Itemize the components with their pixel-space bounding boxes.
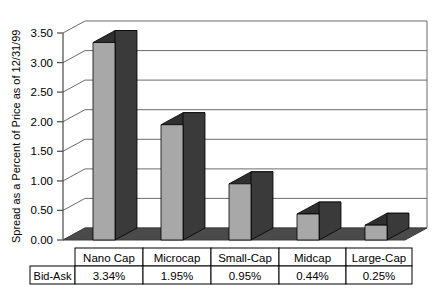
table-data-value: 0.95% (229, 270, 262, 282)
y-tick-label: 1.00 (31, 175, 53, 187)
bar-chart-3d: 3.50 3.00 2.50 2.00 1.50 1.00 0.50 0.00 … (0, 0, 444, 289)
y-axis (57, 33, 63, 240)
y-axis-title: Spread as a Percent of Price as of 12/31… (10, 30, 22, 243)
y-tick-label: 2.00 (31, 116, 53, 128)
y-axis-tick-labels: 3.50 3.00 2.50 2.00 1.50 1.00 0.50 0.00 (31, 27, 53, 246)
bar-front-face (365, 225, 387, 240)
y-tick-label: 1.50 (31, 145, 53, 157)
y-tick-label: 2.50 (31, 86, 53, 98)
y-axis-title-text: Spread as a Percent of Price as of 12/31… (10, 30, 22, 243)
bar-side-face (183, 113, 205, 240)
bar-front-face (229, 184, 251, 240)
table-data-value: 3.34% (93, 270, 126, 282)
table-row-header-label: Bid-Ask (34, 270, 72, 282)
y-tick-label: 0.50 (31, 204, 53, 216)
table-header-label: Microcap (154, 252, 201, 264)
table-header-label: Small-Cap (218, 252, 272, 264)
table-data-value: 1.95% (161, 270, 194, 282)
y-tick-label: 3.50 (31, 27, 53, 39)
bar-front-face (93, 43, 115, 241)
table-data-row: Bid-Ask 3.34% 1.95% 0.95% 0.44% 0.25% (30, 266, 412, 284)
chart-container: 3.50 3.00 2.50 2.00 1.50 1.00 0.50 0.00 … (0, 0, 444, 289)
table-data-value: 0.44% (296, 270, 329, 282)
y-tick-label: 0.00 (31, 234, 53, 246)
bar-small-cap[interactable] (229, 172, 273, 240)
table-header-label: Large-Cap (352, 252, 406, 264)
data-table: Nano Cap Microcap Small-Cap Midcap Large… (30, 248, 412, 284)
table-data-value: 0.25% (363, 270, 396, 282)
bar-front-face (161, 125, 183, 240)
table-header-label: Nano Cap (83, 252, 135, 264)
y-tick-label: 3.00 (31, 57, 53, 69)
bar-microcap[interactable] (161, 113, 205, 240)
table-header-label: Midcap (294, 252, 331, 264)
bar-nano-cap[interactable] (93, 31, 137, 241)
table-header-row: Nano Cap Microcap Small-Cap Midcap Large… (75, 248, 412, 266)
plot-left-wall (63, 21, 85, 240)
bar-front-face (297, 214, 319, 240)
bar-side-face (251, 172, 273, 240)
bar-side-face (115, 31, 137, 241)
